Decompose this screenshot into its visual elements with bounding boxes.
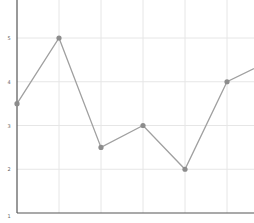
- y-tick-label: 2: [7, 166, 10, 172]
- axes: [17, 0, 254, 213]
- y-tick-label: 4: [7, 79, 10, 85]
- data-point-marker: [182, 167, 187, 172]
- data-series: [14, 35, 254, 171]
- data-point-marker: [140, 123, 145, 128]
- data-point-marker: [56, 35, 61, 40]
- y-tick-label: 5: [7, 35, 10, 41]
- gridlines: [17, 0, 254, 213]
- line-chart: 54321: [0, 0, 254, 223]
- y-tick-label: 3: [7, 123, 10, 129]
- y-tick-label: 1: [7, 213, 10, 219]
- data-point-marker: [224, 79, 229, 84]
- y-tick-labels: 54321: [7, 35, 10, 219]
- series-line: [17, 38, 254, 169]
- data-point-marker: [14, 101, 19, 106]
- data-point-marker: [98, 145, 103, 150]
